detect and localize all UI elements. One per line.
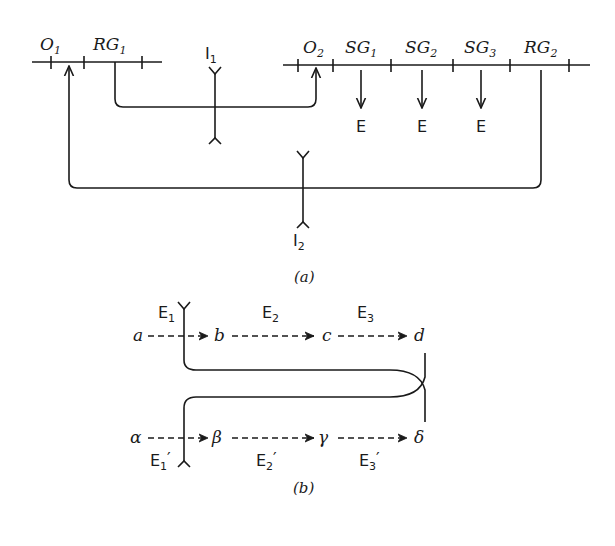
caption-b: (b): [293, 479, 314, 497]
label-rg1: RG1: [92, 34, 126, 57]
event-e3-prime: E3′: [359, 449, 380, 473]
left-timeline: [32, 56, 162, 69]
rg2-to-o1-connector: [69, 66, 541, 188]
emit-label-3: E: [476, 117, 486, 136]
emit-label-1: E: [356, 117, 366, 136]
node-delta: δ: [414, 427, 424, 447]
node-gamma: γ: [318, 427, 329, 447]
event-e1-prime: E1′: [150, 449, 171, 473]
emit-label-2: E: [417, 117, 427, 136]
event-e2: E2: [262, 303, 279, 325]
node-a: a: [133, 325, 143, 345]
label-i2: I2: [293, 231, 305, 253]
right-timeline: [283, 59, 590, 72]
label-o2: O2: [303, 37, 324, 60]
label-sg1: SG1: [345, 37, 377, 60]
event-e3: E3: [357, 303, 374, 325]
label-sg2: SG2: [405, 37, 437, 60]
node-beta: β: [211, 427, 222, 447]
event-e1: E1: [158, 303, 175, 325]
interface-i2-icon: [297, 151, 309, 228]
figure-b: a b c d E1 E2 E3 α β γ δ E1′ E2′ E3′: [130, 302, 425, 497]
event-e2-prime: E2′: [256, 449, 277, 473]
node-b: b: [214, 325, 225, 345]
interface-i1-icon: [209, 67, 221, 144]
label-i1: I1: [205, 44, 217, 66]
node-alpha: α: [130, 427, 142, 447]
diagram-canvas: O1 RG1 O2 SG1 SG2 SG3 RG2 I1: [0, 0, 615, 546]
figure-a: O1 RG1 O2 SG1 SG2 SG3 RG2 I1: [32, 34, 590, 286]
caption-a: (a): [294, 268, 315, 286]
node-d: d: [414, 325, 425, 345]
label-rg2: RG2: [523, 37, 557, 60]
label-o1: O1: [40, 34, 61, 57]
label-sg3: SG3: [464, 37, 496, 60]
node-c: c: [322, 325, 332, 345]
